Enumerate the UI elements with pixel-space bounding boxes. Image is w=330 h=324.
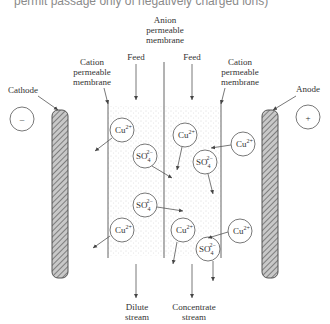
svg-text:Cation: Cation (80, 57, 104, 67)
svg-text:Dilute: Dilute (126, 302, 149, 312)
ion-so4-2: SO42− (193, 150, 217, 174)
svg-text:membrane: membrane (146, 35, 184, 45)
ion-cu-6: Cu2+ (228, 219, 252, 243)
concentrate-stream-label: Concentrate stream (172, 302, 215, 322)
ion-cu-1: Cu2+ (110, 118, 134, 142)
svg-text:permeable: permeable (146, 25, 183, 35)
cathode-label: Cathode (8, 85, 38, 95)
svg-text:Cation: Cation (228, 57, 252, 67)
anion-membrane-label: Anion permeable membrane (146, 15, 184, 45)
cation-membrane-label-right: Cation permeable membrane (221, 57, 259, 87)
ion-cu-4: Cu2+ (110, 218, 134, 242)
svg-text:Anion: Anion (154, 15, 177, 25)
svg-text:permeable: permeable (221, 67, 258, 77)
ion-cu-3: Cu2+ (231, 132, 255, 156)
cathode-sign: – (19, 114, 25, 124)
svg-text:stream: stream (125, 312, 149, 322)
anode-pointer (273, 96, 296, 110)
svg-text:permeable: permeable (73, 67, 110, 77)
svg-text:membrane: membrane (221, 77, 259, 87)
ion-cu-4-arrow (93, 236, 110, 248)
dilute-stream-label: Dilute stream (125, 302, 149, 322)
ion-so4-3: SO42− (133, 193, 157, 217)
feed-label-left: Feed (127, 52, 145, 62)
ion-cu-5: Cu2+ (171, 218, 195, 242)
cation-left-pointer (104, 88, 108, 104)
cation-membrane-label-left: Cation permeable membrane (73, 57, 111, 87)
svg-text:stream: stream (182, 312, 206, 322)
ion-so4-1: SO42− (133, 144, 157, 168)
svg-text:membrane: membrane (73, 77, 111, 87)
cathode-electrode (52, 110, 68, 278)
electrodialysis-diagram: Anion permeable membrane Feed Feed Catio… (0, 0, 330, 324)
anode-electrode (262, 110, 278, 278)
feed-label-right: Feed (183, 52, 201, 62)
svg-text:Concentrate: Concentrate (172, 302, 215, 312)
anode-label: Anode (296, 84, 320, 94)
cation-right-pointer (221, 88, 225, 104)
anode-sign: + (305, 113, 310, 123)
ion-so4-4: SO42− (196, 237, 220, 261)
cathode-pointer (38, 96, 58, 110)
ion-cu-2: Cu2+ (173, 123, 197, 147)
